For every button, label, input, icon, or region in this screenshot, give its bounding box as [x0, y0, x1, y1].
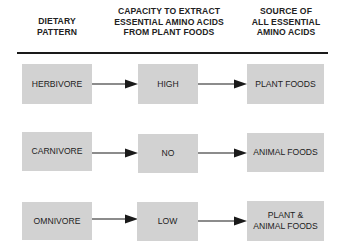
header-line: ALL ESSENTIAL [240, 17, 332, 28]
source-label: ANIMAL FOODS [253, 147, 318, 158]
source-box-plant-foods: PLANT FOODS [247, 64, 324, 104]
header-dietary-pattern: DIETARY PATTERN [17, 16, 97, 37]
pattern-label: HERBIVORE [32, 79, 83, 90]
source-box-plant-and-animal-foods: PLANT & ANIMAL FOODS [247, 201, 324, 241]
pattern-box-omnivore: OMNIVORE [22, 202, 92, 240]
header-capacity: CAPACITY TO EXTRACT ESSENTIAL AMINO ACID… [106, 6, 232, 38]
arrow-icon [198, 79, 247, 89]
capacity-box-high: HIGH [138, 64, 198, 104]
header-line: AMINO ACIDS [240, 27, 332, 38]
source-box-animal-foods: ANIMAL FOODS [247, 133, 324, 172]
source-label: ANIMAL FOODS [253, 221, 318, 232]
pattern-label: OMNIVORE [34, 216, 81, 227]
source-label: PLANT FOODS [255, 79, 316, 90]
header-source: SOURCE OF ALL ESSENTIAL AMINO ACIDS [240, 6, 332, 38]
arrow-icon [92, 79, 138, 89]
capacity-label: NO [162, 148, 175, 159]
arrow-icon [92, 148, 138, 158]
header-line: CAPACITY TO EXTRACT [106, 6, 232, 17]
header-line: ESSENTIAL AMINO ACIDS [106, 17, 232, 28]
arrow-icon [198, 148, 247, 158]
header-divider [17, 52, 328, 54]
arrow-icon [92, 214, 138, 224]
header-line: FROM PLANT FOODS [106, 27, 232, 38]
header-line: DIETARY [17, 16, 97, 27]
pattern-box-carnivore: CARNIVORE [22, 132, 92, 171]
capacity-box-low: LOW [137, 202, 198, 241]
capacity-label: LOW [158, 216, 178, 227]
header-line: SOURCE OF [240, 6, 332, 17]
pattern-label: CARNIVORE [31, 146, 82, 157]
source-label: PLANT & [253, 210, 318, 221]
capacity-label: HIGH [157, 79, 178, 90]
capacity-box-no: NO [138, 134, 198, 173]
header-line: PATTERN [17, 27, 97, 38]
arrow-icon [198, 216, 247, 226]
pattern-box-herbivore: HERBIVORE [22, 64, 92, 104]
